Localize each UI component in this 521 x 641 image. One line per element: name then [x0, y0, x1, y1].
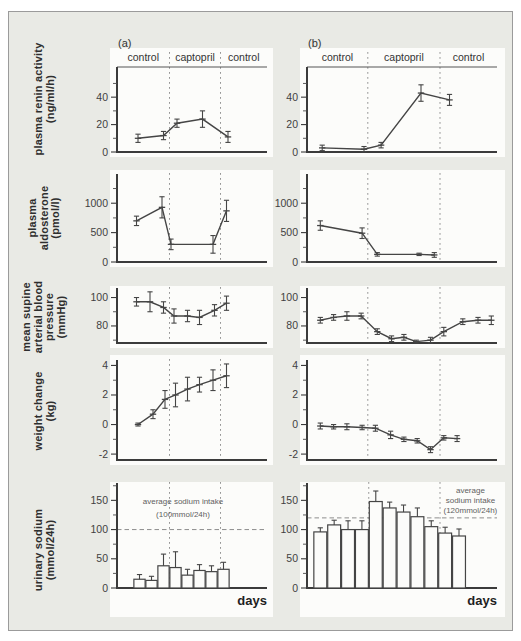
plot-background: [300, 48, 505, 157]
chart-blood-pressure-b: 80100: [273, 286, 505, 348]
y-tick-label: 100: [90, 523, 108, 535]
y-tick-label: 0: [292, 418, 298, 430]
bar: [369, 502, 382, 588]
figure-row-plasma-renin: plasma renin activity (ng/ml/h) (a)contr…: [11, 38, 512, 160]
chart-weight-change-a: -2024: [77, 355, 273, 467]
bar: [342, 530, 355, 588]
y-tick-label: 80: [286, 319, 298, 331]
row-label-unit: (kg): [44, 331, 56, 491]
x-axis-label: days: [467, 593, 497, 608]
y-tick-label: 0: [292, 146, 298, 158]
chart-plasma-renin-b: (b)controlcaptoprilcontrol02040: [273, 38, 505, 160]
y-tick-label: 100: [280, 523, 298, 535]
y-tick-label: 0: [102, 256, 108, 268]
y-tick-label: 40: [96, 91, 108, 103]
period-label: captopril: [384, 51, 424, 63]
annotation-line: (100mmol/24h): [156, 510, 210, 519]
y-tick-label: 20: [286, 118, 298, 130]
row-label-text: urinary sodium (mmol/24h): [33, 470, 56, 630]
y-tick-label: 4: [292, 359, 298, 371]
plot-background: [110, 170, 273, 267]
bar: [206, 572, 217, 588]
bar: [170, 568, 181, 588]
figure-row-blood-pressure: mean supine arterial blood pressure (mmH…: [11, 286, 512, 348]
bar: [425, 527, 438, 588]
y-tick-label: 50: [286, 552, 298, 564]
y-tick-label: 0: [292, 582, 298, 594]
panel-letter: (a): [118, 37, 131, 49]
chart-weight-change-b: -2024: [273, 355, 505, 467]
y-tick-label: 0: [102, 418, 108, 430]
plot-background: [300, 170, 505, 267]
plot-background: [300, 355, 505, 465]
y-tick-label: 2: [102, 388, 108, 400]
y-tick-label: 80: [96, 319, 108, 331]
error-bar: [413, 340, 419, 343]
annotation-line: average: [456, 486, 485, 495]
y-tick-label: -2: [289, 448, 298, 460]
y-tick-label: 100: [90, 291, 108, 303]
chart-urinary-sodium-b: 050100150averagesodium intake(120mmol/24…: [273, 482, 505, 617]
y-tick-label: 0: [102, 582, 108, 594]
y-tick-label: 150: [280, 494, 298, 506]
bar: [134, 579, 145, 588]
row-label-text: weight change (kg): [33, 331, 56, 491]
y-tick-label: 2: [292, 388, 298, 400]
y-tick-label: 500: [90, 226, 108, 238]
annotation-line: average sodium intake: [143, 497, 224, 506]
error-bar: [416, 253, 422, 255]
bar: [411, 517, 424, 588]
bar: [182, 575, 193, 588]
y-tick-label: 0: [292, 256, 298, 268]
y-tick-label: 50: [96, 552, 108, 564]
bar: [194, 570, 205, 588]
y-tick-label: 4: [102, 359, 108, 371]
bar: [218, 569, 229, 588]
y-tick-label: 150: [90, 494, 108, 506]
y-tick-label: 100: [280, 291, 298, 303]
chart-plasma-aldosterone-a: 05001000: [77, 170, 273, 265]
y-tick-label: 1000: [275, 197, 299, 209]
chart-plasma-aldosterone-b: 05001000: [273, 170, 505, 265]
figure-row-plasma-aldosterone: plasma aldosterone (pmol/l) 05001000 050…: [11, 170, 512, 265]
plot-background: [110, 48, 273, 157]
period-label: control: [322, 51, 354, 63]
bar: [328, 525, 341, 588]
chart-blood-pressure-a: 80100: [77, 286, 273, 348]
row-label-line: weight change: [33, 331, 45, 491]
figure-row-weight-change: weight change (kg) -2024 -2024: [11, 355, 512, 467]
figure-frame: plasma renin activity (ng/ml/h) (a)contr…: [8, 11, 513, 631]
row-label-weight-change: weight change (kg): [11, 355, 77, 467]
chart-urinary-sodium-a: 050100150average sodium intake(100mmol/2…: [77, 482, 273, 617]
bar: [158, 566, 169, 588]
period-label: control: [453, 51, 485, 63]
plot-background: [110, 355, 273, 465]
chart-plasma-renin-a: (a)controlcaptoprilcontrol02040: [77, 38, 273, 160]
bar: [355, 530, 368, 588]
period-label: control: [127, 51, 159, 63]
period-label: control: [228, 51, 260, 63]
bar: [453, 536, 466, 588]
bar: [146, 580, 157, 588]
bar: [439, 533, 452, 588]
bar: [397, 512, 410, 588]
y-tick-label: 500: [280, 226, 298, 238]
bar: [383, 508, 396, 588]
y-tick-label: 0: [102, 146, 108, 158]
error-bar: [374, 253, 380, 257]
row-label-line: urinary sodium: [33, 470, 45, 630]
period-label: captopril: [175, 51, 215, 63]
y-tick-label: -2: [99, 448, 108, 460]
annotation-line: (120mmol/24h): [443, 506, 497, 515]
y-tick-label: 1000: [85, 197, 109, 209]
x-axis-label: days: [237, 593, 267, 608]
y-tick-label: 20: [96, 118, 108, 130]
error-bar: [135, 423, 141, 426]
row-label-unit: (mmol/24h): [44, 470, 56, 630]
panel-letter: (b): [308, 37, 321, 49]
row-label-urinary-sodium: urinary sodium (mmol/24h): [11, 482, 77, 617]
figure-row-urinary-sodium: urinary sodium (mmol/24h) 050100150avera…: [11, 482, 512, 617]
y-tick-label: 40: [286, 91, 298, 103]
bar: [314, 532, 327, 588]
annotation-line: sodium intake: [446, 496, 496, 505]
